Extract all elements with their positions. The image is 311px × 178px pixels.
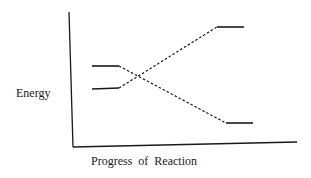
connection-upper-to-lower <box>119 66 226 123</box>
y-axis-label: Energy <box>16 86 50 101</box>
x-axis-label: Progress of Reaction <box>91 154 197 169</box>
x-axis <box>73 142 297 147</box>
connection-lower-to-upper <box>119 27 217 88</box>
level-reactant-lower <box>92 88 119 89</box>
y-axis <box>69 12 73 147</box>
